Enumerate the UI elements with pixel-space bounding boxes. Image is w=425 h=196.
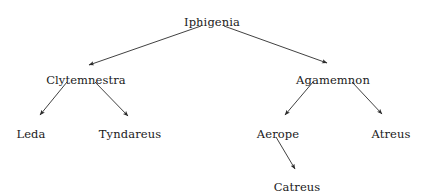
node-catreus: Catreus xyxy=(274,181,321,194)
node-aerope: Aerope xyxy=(257,128,299,141)
edge-iphigenia-clytemnestra xyxy=(89,26,201,65)
edge-layer xyxy=(0,0,425,196)
node-agamemnon: Agamemnon xyxy=(296,74,370,87)
edge-clytemnestra-tyndareus xyxy=(95,82,128,116)
node-iphigenia: Iphigenia xyxy=(184,16,240,29)
node-atreus: Atreus xyxy=(372,128,411,141)
node-clytemnestra: Clytemnestra xyxy=(46,74,126,87)
edge-aerope-catreus xyxy=(276,137,295,169)
edge-iphigenia-agamemnon xyxy=(224,26,327,63)
family-tree-diagram: Iphigenia Clytemnestra Agamemnon Leda Ty… xyxy=(0,0,425,196)
node-leda: Leda xyxy=(16,128,45,141)
node-tyndareus: Tyndareus xyxy=(99,128,161,141)
